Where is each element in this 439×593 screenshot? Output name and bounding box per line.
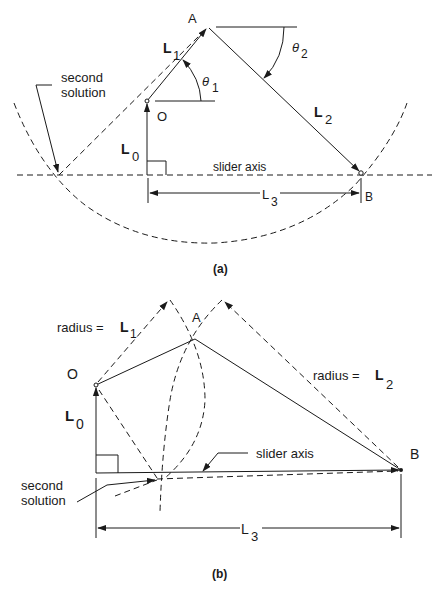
label-point-A-a: A xyxy=(188,11,197,26)
label-radius-L2-sub: 2 xyxy=(386,377,393,392)
label-point-A-b: A xyxy=(192,310,201,325)
slider-B-a xyxy=(359,171,363,175)
label-L0-b: L xyxy=(65,407,74,424)
label-theta2: θ xyxy=(292,40,299,55)
caption-b: (b) xyxy=(212,567,227,581)
caption-a: (a) xyxy=(213,262,228,276)
label-radius-L2-symbol: L xyxy=(375,367,384,383)
label-L0-a: L xyxy=(121,141,130,157)
label-L3-b: L xyxy=(241,521,249,537)
link-L2-a xyxy=(209,28,359,171)
right-angle-marker-a xyxy=(147,161,166,175)
theta1-arc xyxy=(183,60,201,101)
slider-crank-diagram: A O B L 1 L 2 L 0 L 3 θ 1 θ 2 second sol… xyxy=(0,0,439,593)
label-L0-sub-b: 0 xyxy=(76,416,84,432)
slider-axis-leader-b xyxy=(203,453,248,471)
second-solution-leader-b xyxy=(77,480,155,502)
label-second-solution-1-b: second xyxy=(21,478,63,493)
pivot-O-a xyxy=(145,99,149,103)
label-second-solution-2-a: solution xyxy=(61,85,106,100)
label-L3-a: L xyxy=(262,187,269,202)
theta2-arc xyxy=(264,27,284,78)
label-L3-sub-b: 3 xyxy=(251,529,258,544)
label-L0-sub-a: 0 xyxy=(132,149,139,164)
label-L2-a: L xyxy=(314,104,323,120)
label-radius-L1: radius = xyxy=(57,320,104,335)
label-point-O-b: O xyxy=(67,366,78,382)
label-slider-axis-b: slider axis xyxy=(256,446,314,461)
pivot-O-b xyxy=(94,383,98,387)
label-second-solution-1-a: second xyxy=(61,70,103,85)
label-L1-sub-a: 1 xyxy=(173,48,180,63)
label-L2-sub-a: 2 xyxy=(325,112,332,127)
arc-radius-L2-b xyxy=(160,300,222,512)
figure-a: A O B L 1 L 2 L 0 L 3 θ 1 θ 2 second sol… xyxy=(14,11,432,276)
second-solution-link-O-b xyxy=(99,390,157,478)
label-L3-sub-a: 3 xyxy=(271,195,278,209)
label-point-B-b: B xyxy=(410,446,419,462)
label-second-solution-2-b: solution xyxy=(21,493,66,508)
label-point-O-a: O xyxy=(157,109,167,124)
label-theta1-sub: 1 xyxy=(212,81,219,95)
slider-B-b xyxy=(399,468,403,472)
label-point-B-a: B xyxy=(365,190,373,204)
label-radius-L1-symbol: L xyxy=(120,319,129,335)
label-radius-L1-sub: 1 xyxy=(130,327,137,341)
label-radius-L2: radius = xyxy=(313,368,360,383)
second-solution-leader-a xyxy=(36,85,58,172)
label-theta1: θ xyxy=(202,74,209,89)
radius-L1-arrow xyxy=(98,302,167,382)
label-L1-a: L xyxy=(163,40,172,56)
right-angle-marker-b xyxy=(96,455,118,473)
arc-radius-L2-a xyxy=(14,100,408,243)
radius-L2-arrow xyxy=(225,302,398,467)
link-L1-a xyxy=(147,29,206,101)
slider-axis-line-b xyxy=(96,470,399,473)
label-theta2-sub: 2 xyxy=(301,47,308,61)
figure-b: A O B radius = L 1 radius = L 2 L 0 L 3 … xyxy=(21,300,419,581)
label-slider-axis-a: slider axis xyxy=(213,160,266,174)
